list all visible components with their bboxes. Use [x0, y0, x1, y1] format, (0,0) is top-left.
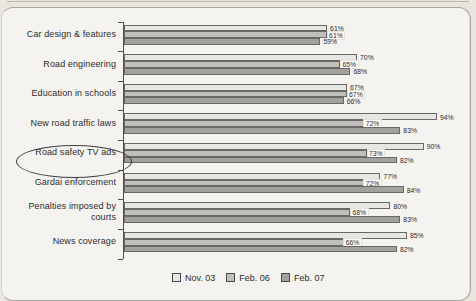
- legend-swatch: [281, 273, 290, 282]
- value-label: 59%: [323, 38, 337, 45]
- bar-feb-07: [124, 216, 400, 223]
- category-label: New road traffic laws: [10, 112, 116, 134]
- value-label: 80%: [393, 203, 407, 210]
- value-label: 94%: [440, 114, 454, 121]
- legend-swatch: [172, 273, 181, 282]
- category-label: Penalties imposed by courts: [10, 201, 116, 223]
- value-label: 82%: [400, 246, 414, 253]
- legend-item: Feb. 06: [226, 273, 270, 283]
- category-label: Car design & features: [10, 23, 116, 45]
- chart-panel: Car design & features61%61%59%Road engin…: [1, 7, 471, 301]
- legend: Nov. 03Feb. 06Feb. 07: [172, 271, 324, 284]
- value-label: 82%: [400, 157, 414, 164]
- value-label: 90%: [427, 143, 441, 150]
- bar-nov-03: [124, 25, 327, 32]
- bar-feb-07: [124, 127, 400, 134]
- value-label: 83%: [403, 216, 417, 223]
- bar-feb-07: [124, 246, 397, 253]
- value-label: 85%: [410, 232, 424, 239]
- category-label: News coverage: [10, 230, 116, 252]
- bar-feb-06: [124, 31, 327, 38]
- bar-nov-03: [124, 54, 357, 61]
- value-label: 77%: [383, 173, 397, 180]
- axis-tick: [118, 140, 123, 141]
- value-label: 66%: [347, 98, 361, 105]
- road-safety-highlight-ellipse: [16, 145, 132, 178]
- category-label: Education in schools: [10, 82, 116, 104]
- bar-feb-06: [124, 91, 347, 98]
- bar-nov-03: [124, 143, 424, 150]
- bar-chart-plot: Car design & features61%61%59%Road engin…: [2, 8, 476, 268]
- axis-tick: [118, 22, 123, 23]
- bar-feb-06: [124, 239, 344, 246]
- bar-nov-03: [124, 84, 347, 91]
- legend-swatch: [226, 273, 235, 282]
- bar-feb-07: [124, 186, 404, 193]
- bar-feb-06: [124, 209, 350, 216]
- bar-feb-06: [124, 120, 364, 127]
- bar-feb-06: [124, 61, 340, 68]
- axis-tick: [118, 51, 123, 52]
- bar-feb-07: [124, 97, 344, 104]
- axis-tick: [118, 199, 123, 200]
- legend-item: Nov. 03: [172, 273, 215, 283]
- axis-tick: [118, 110, 123, 111]
- legend-item: Feb. 07: [281, 273, 325, 283]
- value-label: 68%: [353, 68, 367, 75]
- bar-nov-03: [124, 202, 390, 209]
- legend-label: Feb. 06: [239, 273, 270, 283]
- value-label: 84%: [407, 187, 421, 194]
- legend-label: Feb. 07: [294, 273, 325, 283]
- bar-nov-03: [124, 113, 437, 120]
- bar-feb-07: [124, 38, 320, 45]
- bar-nov-03: [124, 173, 380, 180]
- axis-tick: [118, 229, 123, 230]
- bar-feb-07: [124, 68, 350, 75]
- legend-label: Nov. 03: [185, 273, 215, 283]
- bar-feb-06: [124, 150, 367, 157]
- value-label: 83%: [403, 127, 417, 134]
- axis-tick: [118, 259, 123, 260]
- category-label: Road engineering: [10, 53, 116, 75]
- bar-feb-06: [124, 180, 364, 187]
- value-label: 70%: [360, 54, 374, 61]
- bar-feb-07: [124, 157, 397, 164]
- axis-tick: [118, 81, 123, 82]
- bar-nov-03: [124, 232, 407, 239]
- page-top-rule: [7, 1, 469, 2]
